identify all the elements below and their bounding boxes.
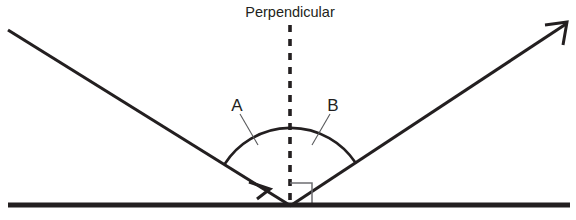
- reflection-diagram-canvas: Perpendicular A B: [0, 0, 576, 220]
- reflection-diagram: Perpendicular A B: [0, 0, 576, 220]
- incident-ray: [8, 30, 291, 206]
- reflected-ray: [290, 24, 566, 206]
- perpendicular-label: Perpendicular: [245, 4, 335, 20]
- angle-label-a: A: [231, 96, 243, 115]
- leader-line-b: [312, 114, 330, 145]
- angle-label-b: B: [327, 96, 338, 115]
- angle-arc: [225, 128, 356, 164]
- incident-ray-arrowhead-icon: [249, 182, 270, 199]
